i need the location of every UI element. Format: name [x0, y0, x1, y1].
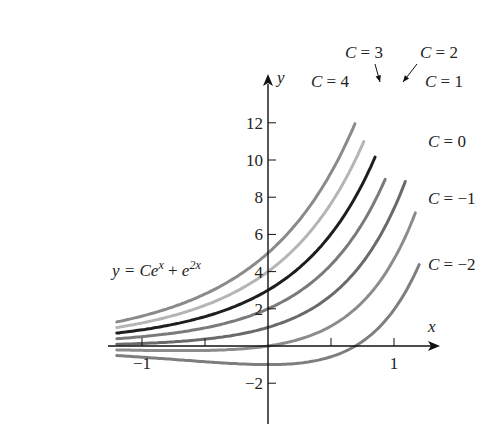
y-tick-label: 2: [255, 300, 264, 319]
curve-label: C = 1: [425, 72, 463, 91]
curve-labels: C = 4C = 3C = 2C = 1C = 0C = −1C = −2: [311, 43, 476, 274]
curve-c-1: [117, 179, 385, 338]
y-tick-label: −2: [245, 374, 263, 393]
curve-label: C = 2: [420, 43, 458, 62]
y-tick-label: 6: [255, 225, 264, 244]
curve-c-2: [117, 157, 375, 333]
curve-c-neg1: [117, 213, 416, 351]
curve-label: C = −1: [428, 189, 476, 208]
curve-label: C = −2: [428, 255, 476, 274]
equation-label: y = Cex + e2x: [110, 258, 201, 280]
curve-label: C = 3: [345, 43, 383, 62]
equation-lhs: y = C: [110, 261, 152, 280]
y-tick-label: 10: [246, 151, 263, 170]
y-tick-label: 4: [255, 263, 264, 282]
y-axis-label: y: [275, 68, 285, 87]
curve-label: C = 0: [428, 132, 466, 151]
y-tick-label: 12: [246, 114, 263, 133]
solution-curves-plot: −11−224681012 C = 4C = 3C = 2C = 1C = 0C…: [0, 0, 495, 424]
curve-label: C = 4: [311, 72, 349, 91]
x-axis-label: x: [427, 317, 436, 336]
y-tick-label: 8: [255, 188, 264, 207]
x-tick-label: 1: [390, 354, 399, 373]
x-tick-label: −1: [133, 354, 151, 373]
